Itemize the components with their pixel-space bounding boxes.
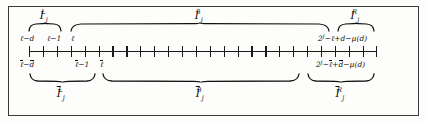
tick-mark [376, 46, 377, 57]
top-brace-IjL [28, 22, 62, 32]
endpoint-label-ell-minus-one: ℓ−1 [47, 34, 61, 43]
bottom-brace-label-IbarjR: IRj [335, 87, 346, 99]
number-line [29, 51, 376, 52]
tick-mark [168, 46, 169, 57]
tick-mark [29, 46, 30, 57]
tick-mark [238, 46, 239, 57]
label-sub-j: j [342, 94, 344, 102]
tick-mark [196, 46, 197, 57]
tick-mark [99, 46, 100, 57]
tick-mark [43, 46, 44, 57]
tick-mark [71, 46, 72, 57]
top-brace-label-IjR: IRj [350, 9, 361, 21]
endpoint-label-two-j-minus-ellbar-plus-dbar-minus-mu-d: 2j−ℓ+d−μ(d) [316, 60, 365, 69]
top-brace-IjR [337, 22, 375, 32]
tick-mark [279, 46, 280, 57]
endpoint-label-ell-minus-d: ℓ−d [20, 34, 34, 43]
tick-mark [321, 46, 322, 57]
tick-mark [182, 46, 183, 57]
tick-mark [85, 46, 86, 57]
label-sup-R: R [337, 86, 342, 94]
endpoint-label-two-j-minus-ell-plus-d-minus-mu-d: 2j−ℓ+d−μ(d) [318, 34, 367, 43]
label-sup-R: R [352, 8, 357, 16]
figure-root: ILj I0j IRj ℓ−d ℓ−1 ℓ 2j−ℓ+d−μ(d) [0, 0, 428, 124]
tick-mark [154, 46, 155, 57]
endpoint-label-ellbar-minus-one: ℓ−1 [75, 60, 89, 69]
bottom-brace-Ibarj0 [102, 73, 300, 83]
tick-mark [126, 46, 127, 57]
tick-mark [307, 46, 308, 57]
top-brace-label-Ij0: I0j [195, 9, 205, 21]
label-sub-j: j [63, 94, 65, 102]
endpoint-label-ell: ℓ [71, 34, 74, 43]
top-brace-Ij0 [70, 22, 330, 32]
tick-mark [293, 46, 294, 57]
tick-mark [224, 46, 225, 57]
tick-mark [251, 46, 252, 57]
tick-mark [57, 46, 58, 57]
label-sup-L: L [41, 8, 45, 16]
bottom-brace-label-Ibarj0: I0j [196, 87, 206, 99]
bottom-brace-IbarjR [307, 73, 375, 83]
label-sup-L: L [58, 86, 62, 94]
bottom-brace-label-IbarjL: ILj [57, 87, 68, 99]
bottom-brace-IbarjL [29, 73, 96, 83]
tick-mark [140, 46, 141, 57]
tick-mark [210, 46, 211, 57]
endpoint-label-ellbar: ℓ [100, 60, 103, 69]
tick-mark [265, 46, 266, 57]
tick-mark [349, 46, 350, 57]
endpoint-label-ellbar-minus-dbar: ℓ−d [20, 60, 34, 69]
label-sup-0: 0 [196, 8, 200, 16]
tick-mark [335, 46, 336, 57]
label-sup-0: 0 [197, 86, 201, 94]
label-sub-j: j [202, 94, 204, 102]
tick-mark [363, 46, 364, 57]
top-brace-label-IjL: ILj [40, 9, 51, 21]
tick-mark [112, 46, 113, 57]
